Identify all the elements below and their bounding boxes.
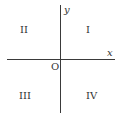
quadrant-1-label: I	[86, 25, 90, 35]
origin-label: O	[51, 62, 59, 72]
x-axis-label: x	[107, 48, 113, 58]
y-axis-label: y	[64, 5, 70, 15]
quadrant-4-label: IV	[86, 91, 97, 101]
quadrant-2-label: II	[20, 25, 28, 35]
y-axis-line	[60, 5, 61, 113]
quadrant-3-label: III	[19, 91, 31, 101]
